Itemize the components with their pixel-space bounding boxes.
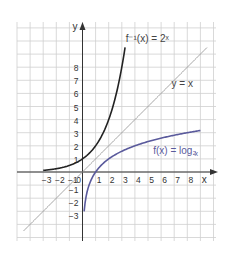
label-exponential: f⁻¹(x) = 2ˣ	[126, 33, 170, 44]
y-tick-label: 5	[74, 103, 79, 113]
x-tick-label: 6	[162, 175, 167, 185]
x-tick-label: 2	[110, 175, 115, 185]
y-tick-label: −3	[69, 211, 79, 221]
y-tick-label: 3	[74, 129, 79, 139]
x-tick-label: 7	[175, 175, 180, 185]
x-tick-label: 1	[97, 175, 102, 185]
x-tick-label: 3	[123, 175, 128, 185]
x-tick-label: 5	[149, 175, 154, 185]
line-y-equals-x	[24, 48, 207, 231]
y-axis-arrow-icon	[80, 22, 86, 30]
y-tick-label: 4	[74, 116, 79, 126]
x-axis-arrow-icon	[210, 169, 218, 175]
x-tick-label: 4	[136, 175, 141, 185]
y-tick-label: −2	[69, 198, 79, 208]
label-logarithm-subscript: x	[195, 150, 199, 157]
x-tick-label: −2	[55, 175, 65, 185]
y-tick-label: 8	[74, 63, 79, 73]
curve-exponential	[43, 47, 125, 170]
curve-logarithm	[84, 130, 200, 211]
y-tick-label: −1	[69, 185, 79, 195]
y-tick-label: 6	[74, 89, 79, 99]
y-tick-label: 2	[74, 142, 79, 152]
y-tick-label: 7	[74, 76, 79, 86]
x-axis-label: x	[202, 174, 207, 185]
x-tick-label: −3	[42, 175, 52, 185]
x-tick-label: 8	[188, 175, 193, 185]
label-identity: y = x	[172, 78, 193, 89]
label-logarithm: f(x) = log₂	[153, 145, 196, 156]
y-axis-label: y	[73, 21, 78, 32]
function-graph: xy−3−2−1012345678−3−2−112345678f⁻¹(x) = …	[0, 0, 229, 256]
